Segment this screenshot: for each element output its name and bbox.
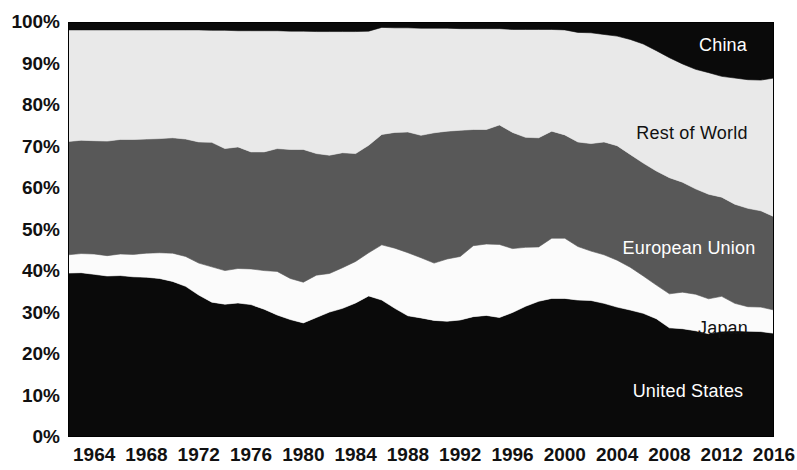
series-label-rest-of-world: Rest of World	[636, 123, 747, 144]
x-tick-1964: 1964	[68, 445, 120, 465]
series-label-european-union: European Union	[623, 238, 756, 259]
y-tick-60: 60%	[0, 178, 60, 198]
x-tick-1980: 1980	[277, 445, 329, 465]
y-tick-10: 10%	[0, 386, 60, 406]
y-tick-50: 50%	[0, 220, 60, 240]
series-label-japan: Japan	[698, 318, 748, 339]
x-tick-1976: 1976	[225, 445, 277, 465]
series-label-united-states: United States	[633, 381, 744, 402]
x-tick-1992: 1992	[434, 445, 486, 465]
y-tick-30: 30%	[0, 303, 60, 323]
y-tick-20: 20%	[0, 344, 60, 364]
x-tick-2012: 2012	[696, 445, 748, 465]
stacked-area-chart: 100%90%80%70%60%50%40%30%20%10%0% ChinaR…	[0, 0, 797, 470]
y-tick-80: 80%	[0, 95, 60, 115]
x-tick-1984: 1984	[330, 445, 382, 465]
x-tick-2000: 2000	[539, 445, 591, 465]
x-tick-2016: 2016	[748, 445, 797, 465]
x-tick-1988: 1988	[382, 445, 434, 465]
series-label-china: China	[699, 35, 747, 56]
y-tick-90: 90%	[0, 54, 60, 74]
y-tick-100: 100%	[0, 12, 60, 32]
y-tick-70: 70%	[0, 137, 60, 157]
x-tick-1968: 1968	[120, 445, 172, 465]
x-tick-1972: 1972	[173, 445, 225, 465]
x-tick-2008: 2008	[643, 445, 695, 465]
y-tick-0: 0%	[0, 427, 60, 447]
chart-plot-svg	[68, 22, 774, 437]
x-tick-1996: 1996	[487, 445, 539, 465]
y-tick-40: 40%	[0, 261, 60, 281]
chart-plot-area	[68, 22, 774, 437]
x-tick-2004: 2004	[591, 445, 643, 465]
